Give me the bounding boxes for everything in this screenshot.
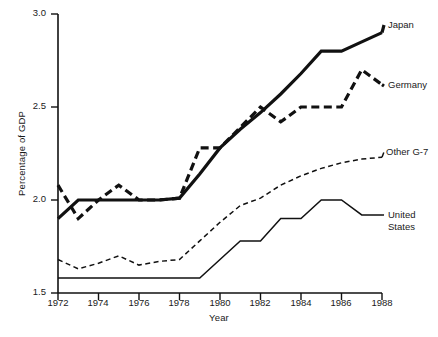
plot-area xyxy=(0,0,438,337)
series-line-united-states xyxy=(58,200,382,278)
leader-line-germany xyxy=(382,85,384,86)
series-line-japan xyxy=(58,33,382,219)
x-ticks xyxy=(58,293,382,300)
leader-line-other-g7 xyxy=(382,152,384,157)
data-series xyxy=(58,33,382,279)
leader-line-japan xyxy=(382,25,384,33)
label-leaders xyxy=(382,25,384,215)
series-line-other-g-7 xyxy=(58,157,382,269)
chart-figure: Percentage of GDP 3.0 2.5 2.0 1.5 1972 1… xyxy=(0,0,438,337)
series-line-germany xyxy=(58,70,382,219)
axes xyxy=(51,14,382,300)
